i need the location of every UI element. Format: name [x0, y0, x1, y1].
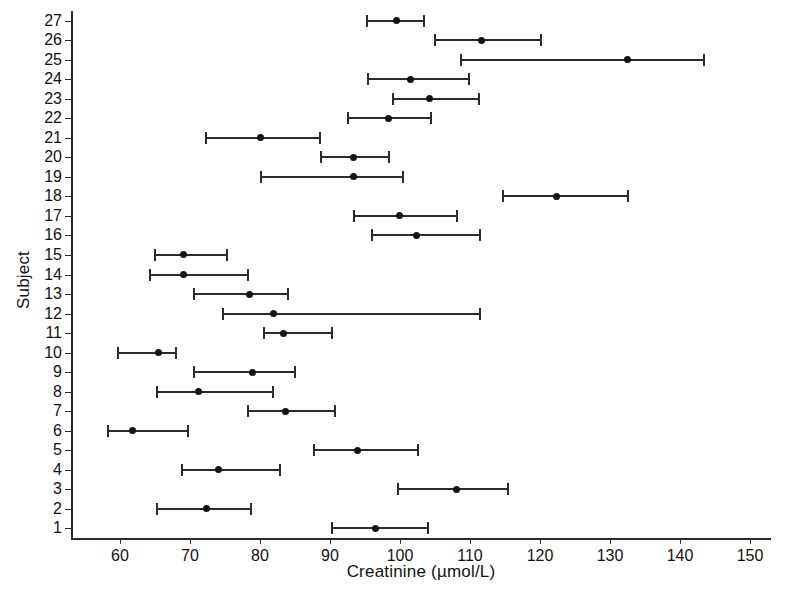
mean-marker-dot: [195, 388, 202, 395]
interval-upper-cap: [507, 483, 509, 495]
x-tick-label: 80: [251, 547, 269, 565]
interval-upper-cap: [287, 288, 289, 300]
y-tick-label: 2: [53, 500, 62, 517]
y-tick-mark: [65, 255, 71, 256]
confidence-interval-line: [502, 195, 629, 197]
y-tick-label: 9: [53, 363, 62, 380]
interval-upper-cap: [540, 34, 542, 46]
y-tick-label: 3: [53, 480, 62, 497]
confidence-interval-line: [371, 234, 481, 236]
mean-marker-dot: [478, 37, 485, 44]
creatinine-confidence-interval-chart: Subject Creatinine (µmol/L) 123456789101…: [0, 0, 786, 600]
confidence-interval-line: [353, 215, 458, 217]
x-tick-mark-70: [190, 538, 191, 544]
y-tick-mark: [65, 314, 71, 315]
mean-marker-dot: [203, 505, 210, 512]
confidence-interval-line: [181, 469, 281, 471]
interval-lower-cap: [320, 151, 322, 163]
y-tick-mark: [65, 157, 71, 158]
x-tick-label: 70: [181, 547, 199, 565]
interval-upper-cap: [250, 503, 252, 515]
interval-lower-cap: [149, 269, 151, 281]
interval-lower-cap: [247, 405, 249, 417]
mean-marker-dot: [350, 173, 357, 180]
mean-marker-dot: [180, 251, 187, 258]
y-tick-label: 26: [44, 31, 62, 48]
interval-lower-cap: [460, 54, 462, 66]
y-tick-mark: [65, 235, 71, 236]
y-tick-label: 12: [44, 305, 62, 322]
mean-marker-dot: [453, 486, 460, 493]
y-tick-mark: [65, 411, 71, 412]
mean-marker-dot: [129, 427, 136, 434]
interval-lower-cap: [156, 503, 158, 515]
interval-upper-cap: [402, 171, 404, 183]
y-tick-mark: [65, 431, 71, 432]
mean-marker-dot: [270, 310, 277, 317]
interval-lower-cap: [367, 73, 369, 85]
interval-upper-cap: [294, 366, 296, 378]
confidence-interval-line: [222, 313, 481, 315]
x-tick-mark-120: [540, 538, 541, 544]
y-tick-mark: [65, 216, 71, 217]
interval-upper-cap: [319, 132, 321, 144]
mean-marker-dot: [553, 193, 560, 200]
x-tick-mark-110: [470, 538, 471, 544]
y-tick-label: 24: [44, 70, 62, 87]
y-tick-label: 19: [44, 168, 62, 185]
y-axis-label: Subject: [14, 0, 44, 560]
x-tick-label: 100: [387, 547, 414, 565]
confidence-interval-line: [434, 39, 543, 41]
y-tick-mark: [65, 196, 71, 197]
mean-marker-dot: [385, 115, 392, 122]
interval-lower-cap: [193, 366, 195, 378]
x-axis-line: [71, 538, 771, 540]
mean-marker-dot: [407, 76, 414, 83]
confidence-interval-line: [107, 430, 190, 432]
interval-lower-cap: [353, 210, 355, 222]
plot-area: 1234567891011121314151617181920212223242…: [71, 11, 771, 538]
interval-upper-cap: [279, 464, 281, 476]
mean-marker-dot: [624, 56, 631, 63]
y-tick-label: 4: [53, 461, 62, 478]
y-tick-mark: [65, 118, 71, 119]
interval-upper-cap: [226, 249, 228, 261]
mean-marker-dot: [249, 369, 256, 376]
interval-lower-cap: [313, 444, 315, 456]
x-tick-label: 140: [667, 547, 694, 565]
y-tick-label: 8: [53, 383, 62, 400]
interval-lower-cap: [117, 347, 119, 359]
x-tick-label: 110: [457, 547, 483, 565]
y-tick-label: 17: [44, 207, 62, 224]
interval-lower-cap: [205, 132, 207, 144]
y-tick-label: 25: [44, 51, 62, 68]
x-tick-mark-90: [330, 538, 331, 544]
confidence-interval-line: [154, 254, 228, 256]
y-tick-label: 27: [44, 12, 62, 29]
x-tick-label: 60: [111, 547, 129, 565]
y-tick-label: 7: [53, 402, 62, 419]
y-tick-mark: [65, 528, 71, 529]
interval-upper-cap: [703, 54, 705, 66]
confidence-interval-line: [247, 410, 336, 412]
interval-upper-cap: [334, 405, 336, 417]
interval-upper-cap: [417, 444, 419, 456]
mean-marker-dot: [180, 271, 187, 278]
y-tick-mark: [65, 138, 71, 139]
x-tick-mark-60: [120, 538, 121, 544]
confidence-interval-line: [313, 449, 419, 451]
mean-marker-dot: [155, 349, 162, 356]
interval-lower-cap: [371, 229, 373, 241]
x-tick-mark-100: [400, 538, 401, 544]
x-tick-label: 120: [527, 547, 554, 565]
y-tick-label: 18: [44, 187, 62, 204]
confidence-interval-line: [331, 527, 430, 529]
interval-lower-cap: [397, 483, 399, 495]
interval-lower-cap: [392, 93, 394, 105]
mean-marker-dot: [393, 17, 400, 24]
interval-upper-cap: [456, 210, 458, 222]
interval-lower-cap: [347, 112, 349, 124]
y-tick-mark: [65, 294, 71, 295]
interval-lower-cap: [366, 15, 368, 27]
mean-marker-dot: [372, 525, 379, 532]
